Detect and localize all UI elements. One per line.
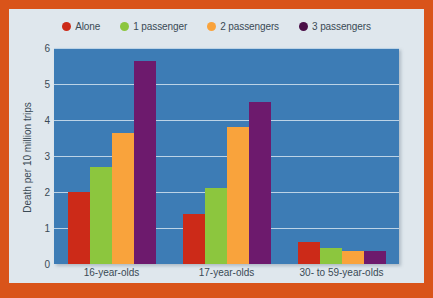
figure-frame: Alone1 passenger2 passengers3 passengers… bbox=[0, 0, 433, 298]
legend-item[interactable]: 1 passenger bbox=[120, 21, 187, 32]
bar-group bbox=[54, 48, 169, 264]
legend-item[interactable]: Alone bbox=[62, 21, 100, 32]
legend-label: 3 passengers bbox=[312, 21, 371, 32]
legend-swatch-icon bbox=[207, 22, 216, 31]
legend-item[interactable]: 2 passengers bbox=[207, 21, 279, 32]
bar[interactable] bbox=[227, 127, 249, 264]
bar[interactable] bbox=[112, 133, 134, 264]
x-axis-tick-label: 17-year-olds bbox=[169, 267, 284, 278]
y-axis-tick-label: 6 bbox=[14, 43, 50, 54]
bar[interactable] bbox=[134, 61, 156, 264]
chart-card: Alone1 passenger2 passengers3 passengers… bbox=[9, 9, 424, 283]
bar[interactable] bbox=[364, 251, 386, 264]
bar[interactable] bbox=[342, 251, 364, 264]
legend-swatch-icon bbox=[62, 22, 71, 31]
y-axis-tick-labels: 0123456 bbox=[9, 48, 50, 264]
legend-label: 1 passenger bbox=[133, 21, 187, 32]
y-axis-tick-label: 1 bbox=[14, 223, 50, 234]
chart-legend: Alone1 passenger2 passengers3 passengers bbox=[9, 15, 424, 37]
bar[interactable] bbox=[320, 248, 342, 264]
bar[interactable] bbox=[205, 188, 227, 264]
plot-area bbox=[54, 48, 399, 264]
legend-swatch-icon bbox=[120, 22, 129, 31]
y-axis-tick-label: 5 bbox=[14, 78, 50, 89]
legend-label: Alone bbox=[75, 21, 100, 32]
x-axis-tick-label: 16-year-olds bbox=[54, 267, 169, 278]
y-axis-tick-label: 4 bbox=[14, 114, 50, 125]
bar-group bbox=[284, 48, 399, 264]
bar[interactable] bbox=[90, 167, 112, 264]
legend-swatch-icon bbox=[299, 22, 308, 31]
legend-item[interactable]: 3 passengers bbox=[299, 21, 371, 32]
y-axis-tick-label: 0 bbox=[14, 259, 50, 270]
bars-layer bbox=[54, 48, 399, 264]
x-axis-tick-labels: 16-year-olds17-year-olds30- to 59-year-o… bbox=[54, 267, 399, 278]
x-axis-tick-label: 30- to 59-year-olds bbox=[284, 267, 399, 278]
bar[interactable] bbox=[68, 192, 90, 264]
y-axis-tick-label: 3 bbox=[14, 151, 50, 162]
bar[interactable] bbox=[249, 102, 271, 264]
bar-group bbox=[169, 48, 284, 264]
legend-label: 2 passengers bbox=[220, 21, 279, 32]
bar[interactable] bbox=[183, 214, 205, 264]
bar[interactable] bbox=[298, 242, 320, 264]
y-axis-tick-label: 2 bbox=[14, 186, 50, 197]
